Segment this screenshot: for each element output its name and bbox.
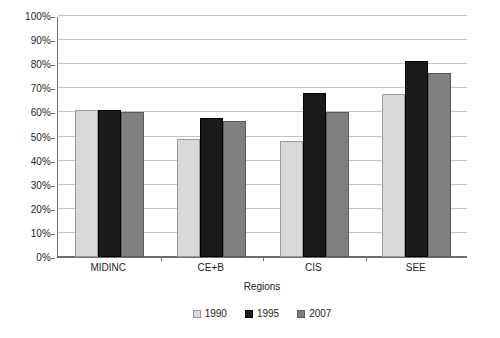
legend-swatch-1995 [245,310,253,318]
bar-see-1990 [382,94,405,257]
legend-item-2007: 2007 [297,308,331,320]
legend-label-1990: 1990 [205,308,227,320]
legend-label-2007: 2007 [309,308,331,320]
y-tick-label-60%: 60% [31,108,51,118]
y-tick-label-100%: 100% [25,12,51,22]
y-tick-label-80%: 80% [31,60,51,70]
y-tick-mark-10% [51,234,55,235]
bar-midinc-2007 [121,112,144,257]
y-tick-mark-60% [51,113,55,114]
bar-midinc-1990 [75,110,98,257]
legend-swatch-1990 [193,310,201,318]
gridline-90 [58,39,467,40]
legend-swatch-2007 [297,310,305,318]
x-tick-label-midinc: MIDINC [90,262,126,274]
chart-legend: 199019952007 [57,308,467,320]
y-axis: 0%10%20%30%40%50%60%70%80%90%100% [0,17,51,258]
y-tick-label-90%: 90% [31,36,51,46]
y-tick-label-50%: 50% [31,133,51,143]
x-tick-mark-2 [263,257,264,261]
bar-see-2007 [428,73,451,257]
legend-label-1995: 1995 [257,308,279,320]
x-axis-title: Regions [57,281,467,293]
bar-see-1995 [405,61,428,257]
y-tick-label-30%: 30% [31,181,51,191]
y-tick-mark-90% [51,41,55,42]
x-tick-label-see: SEE [406,262,426,274]
y-tick-mark-70% [51,89,55,90]
plot-area [57,17,467,258]
x-tick-label-cis: CIS [305,262,322,274]
y-tick-mark-80% [51,65,55,66]
bar-cis-1995 [303,93,326,257]
bar-ce-b-1995 [200,118,223,257]
legend-item-1990: 1990 [193,308,227,320]
y-tick-mark-100% [51,17,55,18]
x-tick-label-ce-b: CE+B [198,262,224,274]
y-tick-label-70%: 70% [31,84,51,94]
clipped-caption [8,330,308,338]
x-tick-mark-3 [366,257,367,261]
y-tick-label-20%: 20% [31,205,51,215]
plot-area-wrapper [57,17,467,258]
y-tick-mark-40% [51,162,55,163]
bar-ce-b-1990 [177,139,200,257]
bar-ce-b-2007 [223,121,246,257]
bar-midinc-1995 [98,110,121,257]
y-tick-label-0%: 0% [36,253,51,263]
bar-cis-2007 [326,112,349,257]
y-tick-label-40%: 40% [31,157,51,167]
x-axis-labels: MIDINCCE+BCISSEE [57,262,467,278]
y-tick-label-10%: 10% [31,229,51,239]
y-tick-mark-20% [51,210,55,211]
gridline-100 [58,15,467,16]
bar-chart-figure: 0%10%20%30%40%50%60%70%80%90%100% MIDINC… [0,0,500,338]
y-tick-mark-30% [51,186,55,187]
bar-cis-1990 [280,141,303,257]
legend-item-1995: 1995 [245,308,279,320]
y-tick-mark-0% [51,258,55,259]
y-tick-mark-50% [51,138,55,139]
x-tick-mark-1 [161,257,162,261]
